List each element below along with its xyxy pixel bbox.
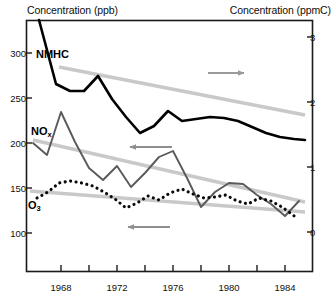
chart-figure: Concentration (ppb) Concentration (ppmC)…: [0, 0, 333, 304]
y-left-ticks: [27, 53, 33, 233]
trend-lines: [30, 67, 305, 212]
series-line-nmhc: [39, 20, 305, 140]
plot-canvas: [0, 0, 333, 304]
trend-line-nmhc: [59, 67, 305, 115]
y-right-ticks: [307, 37, 313, 232]
x-ticks: [61, 265, 285, 272]
